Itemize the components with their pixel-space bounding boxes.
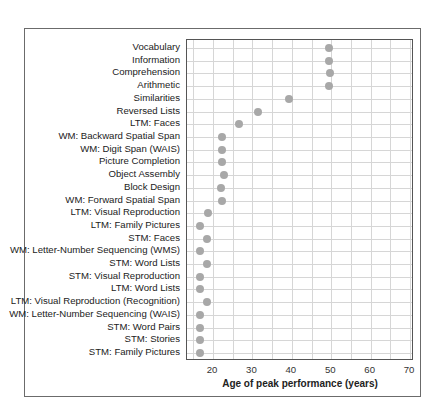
vertical-gridline xyxy=(351,40,352,359)
horizontal-gridline xyxy=(187,340,412,341)
horizontal-gridline xyxy=(187,48,412,49)
horizontal-gridline xyxy=(187,239,412,240)
y-axis-label: WM: Forward Spatial Span xyxy=(65,194,180,206)
horizontal-gridline xyxy=(187,264,412,265)
x-tick-label: 70 xyxy=(404,364,415,375)
y-axis-label: Similarities xyxy=(134,92,180,104)
data-point xyxy=(196,285,204,293)
x-tick-label: 60 xyxy=(364,364,375,375)
vertical-gridline xyxy=(233,40,234,359)
horizontal-gridline xyxy=(187,112,412,113)
data-point xyxy=(285,95,293,103)
y-axis-label: Vocabulary xyxy=(133,41,180,53)
data-point xyxy=(218,146,226,154)
data-point xyxy=(196,349,204,357)
x-tick-label: 20 xyxy=(207,364,218,375)
y-axis-label: LTM: Word Lists xyxy=(111,282,180,294)
horizontal-gridline xyxy=(187,353,412,354)
data-point xyxy=(203,260,211,268)
y-axis-label: Block Design xyxy=(124,181,180,193)
data-point xyxy=(196,247,204,255)
data-point xyxy=(196,311,204,319)
y-axis-label: STM: Faces xyxy=(128,232,180,244)
y-axis-label: LTM: Visual Reproduction xyxy=(71,206,181,218)
data-point xyxy=(203,298,211,306)
vertical-gridline xyxy=(390,40,391,359)
y-axis-label: STM: Word Lists xyxy=(109,257,180,269)
data-point xyxy=(218,158,226,166)
horizontal-gridline xyxy=(187,124,412,125)
y-axis-label: LTM: Family Pictures xyxy=(91,219,180,231)
vertical-gridline xyxy=(252,40,253,359)
vertical-gridline xyxy=(371,40,372,359)
vertical-gridline xyxy=(272,40,273,359)
horizontal-gridline xyxy=(187,277,412,278)
horizontal-gridline xyxy=(187,315,412,316)
horizontal-gridline xyxy=(187,226,412,227)
y-axis-label: STM: Word Pairs xyxy=(107,321,180,333)
horizontal-gridline xyxy=(187,328,412,329)
y-axis-label: WM: Letter-Number Sequencing (WAIS) xyxy=(9,308,180,320)
vertical-gridline xyxy=(292,40,293,359)
x-tick-label: 30 xyxy=(246,364,257,375)
horizontal-gridline xyxy=(187,213,412,214)
x-tick-label: 40 xyxy=(285,364,296,375)
y-axis-label: Reversed Lists xyxy=(117,105,180,117)
data-point xyxy=(217,184,225,192)
data-point xyxy=(218,133,226,141)
vertical-gridline xyxy=(312,40,313,359)
y-axis-label: LTM: Visual Reproduction (Recognition) xyxy=(11,295,180,307)
horizontal-gridline xyxy=(187,251,412,252)
data-point xyxy=(204,209,212,217)
data-point xyxy=(196,273,204,281)
y-axis-label: STM: Stories xyxy=(125,333,180,345)
data-point xyxy=(235,120,243,128)
data-point xyxy=(196,222,204,230)
horizontal-gridline xyxy=(187,73,412,74)
y-axis-label: STM: Visual Reproduction xyxy=(69,270,180,282)
vertical-gridline xyxy=(213,40,214,359)
horizontal-gridline xyxy=(187,99,412,100)
data-point xyxy=(196,336,204,344)
y-axis-label: LTM: Faces xyxy=(130,117,180,129)
data-point xyxy=(326,69,334,77)
x-tick-label: 50 xyxy=(325,364,336,375)
y-axis-label: Information xyxy=(132,54,180,66)
data-point xyxy=(203,235,211,243)
y-axis-label: Object Assembly xyxy=(109,168,180,180)
data-point xyxy=(220,171,228,179)
data-point xyxy=(218,197,226,205)
y-axis-label: STM: Family Pictures xyxy=(89,346,180,358)
y-axis-label: WM: Backward Spatial Span xyxy=(58,130,180,142)
y-axis-label: WM: Letter-Number Sequencing (WMS) xyxy=(10,244,180,256)
y-axis-label: WM: Digit Span (WAIS) xyxy=(80,143,180,155)
x-axis-title: Age of peak performance (years) xyxy=(222,378,378,389)
horizontal-gridline xyxy=(187,302,412,303)
plot-area xyxy=(186,39,413,360)
y-axis-label: Arithmetic xyxy=(137,79,180,91)
vertical-gridline xyxy=(410,40,411,359)
data-point xyxy=(325,57,333,65)
y-axis-label: Picture Completion xyxy=(99,155,180,167)
y-axis-label: Comprehension xyxy=(112,66,180,78)
vertical-gridline xyxy=(193,40,194,359)
data-point xyxy=(196,324,204,332)
horizontal-gridline xyxy=(187,289,412,290)
horizontal-gridline xyxy=(187,86,412,87)
data-point xyxy=(254,108,262,116)
horizontal-gridline xyxy=(187,61,412,62)
